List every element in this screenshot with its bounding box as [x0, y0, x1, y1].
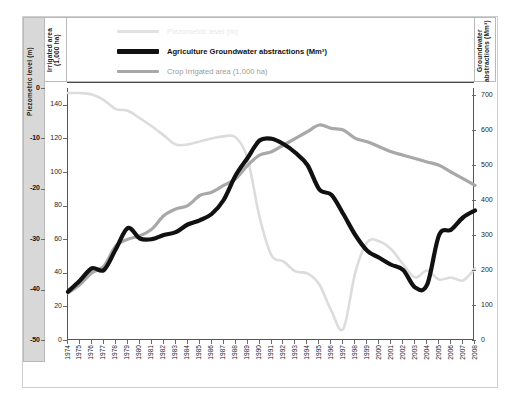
legend-swatch-piezometric [117, 30, 159, 33]
x-tick-label: 1998 [351, 345, 358, 360]
x-tick-label: 2008 [471, 345, 478, 360]
x-tick-mark [306, 340, 307, 344]
x-tick-mark [282, 340, 283, 344]
right-axis-band: Groundwater abstractions (Mm³) [474, 17, 496, 82]
x-tick-label: 1975 [75, 345, 82, 360]
groundwater-axis-title: Groundwater abstractions (Mm³) [476, 20, 496, 82]
irrigated-axis-band: Irrigated area (1,000 ha) [45, 17, 67, 82]
x-tick-mark [259, 340, 260, 344]
x-tick-mark [151, 340, 152, 344]
x-tick-mark [330, 340, 331, 344]
x-tick-mark [438, 340, 439, 344]
irrigated_area-tick-mark [63, 172, 67, 173]
x-tick-mark [342, 340, 343, 344]
groundwater_abstractions-tick-label: 300 [481, 231, 493, 238]
x-tick-mark [318, 340, 319, 344]
x-tick-label: 1985 [195, 345, 202, 360]
x-tick-mark [175, 340, 176, 344]
x-tick-mark [223, 340, 224, 344]
irrigated_area-tick-label: 120 [0, 134, 62, 141]
groundwater_abstractions-tick-mark [472, 200, 476, 201]
x-tick-mark [199, 340, 200, 344]
x-tick-label: 2000 [375, 345, 382, 360]
x-tick-mark [271, 340, 272, 344]
x-tick-label: 1979 [123, 345, 130, 360]
x-tick-label: 1980 [135, 345, 142, 360]
legend-label-groundwater: Agriculture Groundwater abstractions (Mm… [167, 47, 327, 56]
series-line-irrigated_area [68, 125, 475, 293]
x-tick-label: 1982 [159, 345, 166, 360]
x-tick-label: 1984 [183, 345, 190, 360]
series-line-piezometric [68, 93, 475, 330]
legend-label-crop-area: Crop Irrigated area (1,000 ha) [167, 67, 267, 76]
x-tick-label: 2007 [459, 345, 466, 360]
x-tick-mark [378, 340, 379, 344]
groundwater_abstractions-tick-mark [472, 305, 476, 306]
x-tick-mark [115, 340, 116, 344]
irrigated_area-tick-label: 140 [0, 100, 62, 107]
series-line-groundwater_abstractions [68, 138, 475, 292]
irrigated_area-tick-mark [63, 273, 67, 274]
x-tick-mark [163, 340, 164, 344]
x-tick-mark [474, 340, 475, 344]
groundwater_abstractions-tick-label: 700 [481, 91, 493, 98]
x-tick-mark [139, 340, 140, 344]
x-tick-label: 2005 [435, 345, 442, 360]
x-tick-label: 1978 [111, 345, 118, 360]
x-tick-mark [79, 340, 80, 344]
x-tick-label: 1988 [231, 345, 238, 360]
groundwater_abstractions-tick-label: 100 [481, 301, 493, 308]
groundwater_abstractions-tick-mark [472, 95, 476, 96]
legend-label-piezometric: Piezometric level (m) [167, 27, 238, 36]
piezometric-tick-label: -20 [0, 184, 40, 191]
x-tick-label: 1994 [303, 345, 310, 360]
x-tick-mark [211, 340, 212, 344]
groundwater_abstractions-tick-mark [472, 235, 476, 236]
irrigated_area-tick-mark [63, 306, 67, 307]
x-tick-label: 1992 [279, 345, 286, 360]
groundwater_abstractions-tick-label: 0 [481, 336, 485, 343]
irrigated_area-tick-label: 80 [0, 201, 62, 208]
irrigated_area-tick-mark [63, 206, 67, 207]
x-tick-mark [294, 340, 295, 344]
x-tick-label: 2001 [387, 345, 394, 360]
x-tick-label: 1995 [315, 345, 322, 360]
chart-legend: Piezometric level (m) Agriculture Ground… [67, 17, 474, 82]
x-tick-mark [390, 340, 391, 344]
x-tick-label: 1996 [327, 345, 334, 360]
series-layer [68, 88, 475, 340]
plot-top-border [67, 82, 474, 83]
groundwater_abstractions-tick-label: 400 [481, 196, 493, 203]
x-tick-label: 2003 [411, 345, 418, 360]
x-tick-label: 1997 [339, 345, 346, 360]
irrigated_area-tick-label: 0 [0, 336, 62, 343]
x-tick-label: 1983 [171, 345, 178, 360]
piezometric-tick-mark [41, 88, 45, 89]
x-tick-mark [366, 340, 367, 344]
x-tick-label: 1989 [243, 345, 250, 360]
groundwater_abstractions-tick-mark [472, 165, 476, 166]
x-tick-mark [414, 340, 415, 344]
x-tick-label: 1977 [99, 345, 106, 360]
chart-figure: Piezometric level (m) Irrigated area (1,… [0, 0, 519, 404]
plot-area [67, 88, 474, 340]
legend-item-piezometric: Piezometric level (m) [117, 27, 238, 36]
piezometric-axis-title: Piezometric level (m) [26, 22, 44, 142]
groundwater_abstractions-tick-mark [472, 270, 476, 271]
x-tick-label: 1986 [207, 345, 214, 360]
x-tick-mark [450, 340, 451, 344]
irrigated-axis-title: Irrigated area (1,000 ha) [46, 20, 66, 80]
x-tick-label: 1990 [255, 345, 262, 360]
legend-swatch-groundwater [117, 49, 159, 53]
irrigated_area-tick-label: 20 [0, 302, 62, 309]
x-tick-mark [67, 340, 68, 344]
x-tick-label: 1993 [291, 345, 298, 360]
x-tick-mark [91, 340, 92, 344]
groundwater_abstractions-tick-label: 500 [481, 161, 493, 168]
x-tick-mark [462, 340, 463, 344]
x-tick-label: 1974 [64, 345, 71, 360]
x-tick-label: 1976 [87, 345, 94, 360]
x-tick-label: 1981 [147, 345, 154, 360]
piezometric-tick-mark [41, 290, 45, 291]
x-tick-label: 2002 [399, 345, 406, 360]
